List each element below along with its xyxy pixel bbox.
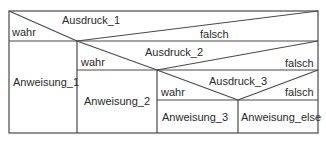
decision-3-false-branch: Anweisung_else [241,111,321,123]
decision-1-true-branch: Anweisung_1 [13,76,79,88]
nassi-shneiderman-diagram: Ausdruck_1 wahr falsch Anweisung_1 Ausdr… [0,0,326,142]
decision-1-true-label: wahr [12,26,36,38]
decision-1-false-label: falsch [200,28,229,40]
decision-1-condition: Ausdruck_1 [62,14,120,26]
decision-3-false-label: falsch [285,86,314,98]
decision-2-true-label: wahr [81,56,105,68]
decision-3-true-label: wahr [161,86,185,98]
decision-2-true-branch: Anweisung_2 [84,95,150,107]
decision-2-false-label: falsch [285,57,314,69]
decision-3-condition: Ausdruck_3 [209,75,267,87]
decision-2-condition: Ausdruck_2 [145,46,203,58]
decision-3-true-branch: Anweisung_3 [162,111,228,123]
